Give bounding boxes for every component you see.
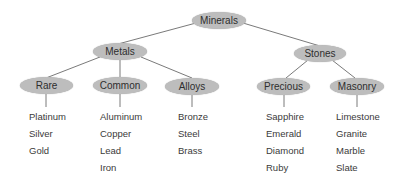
leaf-item: Limestone <box>336 108 380 125</box>
edge-metals-alloys <box>141 57 192 78</box>
edge-metals-rare <box>46 57 100 78</box>
leaf-item: Aluminum <box>100 108 142 125</box>
node-alloys: Alloys <box>165 78 219 95</box>
node-metals: Metals <box>93 43 147 60</box>
node-rare: Rare <box>20 77 73 94</box>
node-masonry: Masonry <box>330 78 384 95</box>
leaf-item: Granite <box>336 125 380 142</box>
leaf-list-masonry: Limestone Granite Marble Slate <box>336 108 380 176</box>
leaf-list-alloys: Bronze Steel Brass <box>178 108 208 159</box>
leaf-item: Emerald <box>266 125 304 142</box>
leaf-item: Marble <box>336 142 380 159</box>
leaf-item: Iron <box>100 159 142 176</box>
leaf-item: Ruby <box>266 159 304 176</box>
node-label: Minerals <box>200 15 238 26</box>
leaf-item: Steel <box>178 125 208 142</box>
leaf-list-rare: Platinum Silver Gold <box>29 108 66 159</box>
leaf-item: Copper <box>100 125 142 142</box>
leaf-item: Bronze <box>178 108 208 125</box>
node-label: Precious <box>264 81 303 92</box>
node-label: Masonry <box>338 81 376 92</box>
leaf-item: Slate <box>336 159 380 176</box>
leaf-list-precious: Sapphire Emerald Diamond Ruby <box>266 108 304 176</box>
node-stones: Stones <box>294 45 346 62</box>
leaf-item: Platinum <box>29 108 66 125</box>
node-label: Stones <box>304 48 335 59</box>
leaf-list-common: Aluminum Copper Lead Iron <box>100 108 142 176</box>
edge-minerals-stones <box>243 23 320 46</box>
edge-stones-precious <box>286 60 308 78</box>
node-minerals: Minerals <box>192 12 246 29</box>
leaf-item: Gold <box>29 142 66 159</box>
leaf-item: Sapphire <box>266 108 304 125</box>
leaf-item: Brass <box>178 142 208 159</box>
node-precious: Precious <box>257 78 310 95</box>
node-label: Alloys <box>179 81 206 92</box>
leaf-item: Diamond <box>266 142 304 159</box>
leaf-item: Silver <box>29 125 66 142</box>
leaf-item: Lead <box>100 142 142 159</box>
node-label: Metals <box>105 46 134 57</box>
node-common: Common <box>93 77 147 94</box>
edge-stones-masonry <box>332 60 355 78</box>
node-label: Common <box>100 80 141 91</box>
edge-minerals-metals <box>118 23 196 44</box>
node-label: Rare <box>36 80 58 91</box>
